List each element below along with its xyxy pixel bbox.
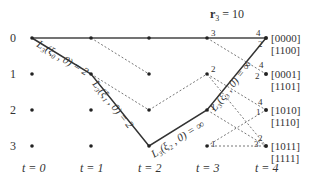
metric-t4-r1-a: 4 — [259, 60, 264, 70]
metric-t3-r3: 1 — [211, 139, 216, 149]
metric-t4-r1-b: 2 — [255, 71, 260, 81]
time-label-1: t = 1 — [80, 161, 103, 175]
metric-t3-r0: 3 — [211, 28, 216, 38]
state-label-3-top: [1011] — [271, 140, 300, 152]
metric-t4-r3-a: 2 — [258, 133, 263, 143]
state-label-2-bottom: [1110] — [271, 116, 300, 128]
metric-t4-r3-b: 3 — [254, 139, 259, 149]
metric-t3-r1: 2 — [211, 64, 216, 74]
row-label-3: 3 — [10, 139, 16, 153]
state-label-1-top: [0001] — [271, 68, 300, 80]
row-label-1: 1 — [10, 67, 16, 81]
state-label-1-bottom: [1101] — [271, 80, 300, 92]
path-label-xi0: L₃(ξ₀ , 0) = 2 — [34, 37, 92, 79]
metric-t4-r2-b: 1 — [256, 107, 261, 117]
time-label-3: t = 3 — [196, 161, 219, 175]
state-label-3-bottom: [1111] — [271, 152, 299, 164]
time-label-0: t = 0 — [22, 161, 45, 175]
title: r3 = 10 — [210, 7, 244, 23]
state-label-0-bottom: [1100] — [271, 44, 300, 56]
metric-t4-r0-a: 4 — [256, 28, 261, 38]
path-label-xi2: L₃(ξ₂ , 0) = ∞ — [148, 117, 207, 161]
trellis-diagram: r3 = 10 0 1 2 3 t = 0 t = 1 t = 2 t = 3 … — [0, 0, 319, 182]
metric-t4-r0-b: 2 — [258, 39, 263, 49]
state-label-2-top: [1010] — [271, 104, 300, 116]
time-label-2: t = 2 — [138, 161, 161, 175]
path-label-xi1: L₃(ξ₁ , 0) = 2 — [89, 77, 137, 131]
metric-t4-r2-a: 4 — [258, 97, 263, 107]
row-label-2: 2 — [10, 103, 16, 117]
row-label-0: 0 — [10, 31, 16, 45]
state-label-0-top: [0000] — [271, 32, 300, 44]
